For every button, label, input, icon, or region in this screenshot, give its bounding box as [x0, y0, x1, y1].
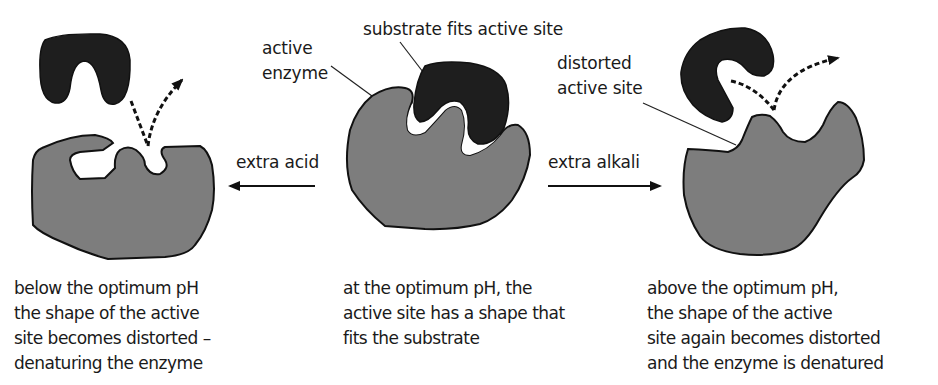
caption-right-line-3: site again becomes distorted — [647, 326, 884, 351]
caption-middle-line-3: fits the substrate — [343, 326, 565, 351]
caption-below-optimum: below the optimum pH the shape of the ac… — [14, 276, 211, 376]
extra-alkali-label: extra alkali — [548, 150, 640, 175]
caption-left-line-3: site becomes distorted – — [14, 326, 211, 351]
caption-left-line-2: the shape of the active — [14, 301, 211, 326]
caption-right-line-4: and the enzyme is denatured — [647, 351, 884, 376]
substrate-fits-label: substrate fits active site — [363, 17, 563, 42]
active-enzyme-label: active enzyme — [262, 36, 328, 86]
caption-middle-line-1: at the optimum pH, the — [343, 276, 565, 301]
substrate-leader-line — [400, 42, 423, 72]
caption-right-line-2: the shape of the active — [647, 301, 884, 326]
caption-right-line-1: above the optimum pH, — [647, 276, 884, 301]
left-enzyme-shape — [32, 135, 214, 259]
distorted-site-label-line-2: active site — [557, 76, 643, 101]
caption-at-optimum: at the optimum pH, the active site has a… — [343, 276, 565, 351]
extra-acid-label: extra acid — [236, 150, 319, 175]
caption-left-line-1: below the optimum pH — [14, 276, 211, 301]
active-enzyme-label-line-2: enzyme — [262, 61, 328, 86]
caption-middle-line-2: active site has a shape that — [343, 301, 565, 326]
active-enzyme-label-line-1: active — [262, 36, 328, 61]
left-dashed-arrow-in — [131, 101, 148, 146]
enzyme-ph-diagram: active enzyme substrate fits active site… — [0, 0, 938, 385]
right-dashed-arrow-out — [774, 58, 838, 110]
left-substrate-shape — [40, 34, 130, 104]
distorted-site-label: distorted active site — [557, 51, 643, 101]
caption-above-optimum: above the optimum pH, the shape of the a… — [647, 276, 884, 376]
active-enzyme-leader-line — [331, 66, 372, 96]
left-dashed-arrow-out — [148, 80, 182, 146]
distorted-site-label-line-1: distorted — [557, 51, 643, 76]
right-enzyme-shape — [684, 102, 865, 255]
caption-left-line-4: denaturing the enzyme — [14, 351, 211, 376]
right-dashed-arrow-in — [731, 81, 774, 110]
right-substrate-shape — [681, 28, 774, 122]
